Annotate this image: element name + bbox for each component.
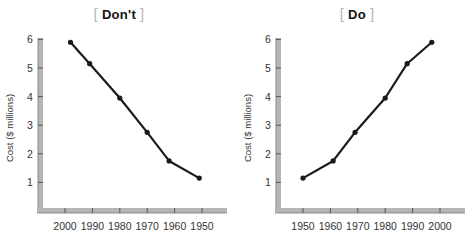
y-tick-label: 4 xyxy=(265,91,271,103)
y-tick-label: 2 xyxy=(27,148,33,160)
data-line xyxy=(303,42,432,178)
data-point xyxy=(331,158,336,163)
y-tick-label: 1 xyxy=(265,176,271,188)
data-point xyxy=(352,130,357,135)
x-tick-label: 1960 xyxy=(319,220,343,232)
do-chart-plot: Cost ($ millions)12345619501960197019801… xyxy=(238,0,476,240)
dont-chart-panel: [ Don't ] Cost ($ millions)1234562000199… xyxy=(0,0,238,240)
x-tick-label: 2000 xyxy=(53,220,77,232)
x-tick-label: 1980 xyxy=(108,220,132,232)
y-axis-label: Cost ($ millions) xyxy=(4,94,15,162)
y-axis-label: Cost ($ millions) xyxy=(242,94,253,162)
data-point xyxy=(300,176,305,181)
x-tick-label: 1980 xyxy=(374,220,398,232)
data-point xyxy=(405,61,410,66)
y-tick-label: 5 xyxy=(27,62,33,74)
x-tick-label: 2000 xyxy=(428,220,452,232)
y-tick-label: 3 xyxy=(265,119,271,131)
data-point xyxy=(429,40,434,45)
data-point xyxy=(87,61,92,66)
x-tick-label: 1970 xyxy=(136,220,160,232)
data-point xyxy=(68,40,73,45)
y-tick-label: 3 xyxy=(27,119,33,131)
do-chart-panel: [ Do ] Cost ($ millions)1234561950196019… xyxy=(238,0,476,240)
data-point xyxy=(383,95,388,100)
dont-chart-plot: Cost ($ millions)12345620001990198019701… xyxy=(0,0,238,240)
y-tick-label: 6 xyxy=(265,33,271,45)
data-point xyxy=(117,95,122,100)
y-tick-label: 6 xyxy=(27,33,33,45)
data-point xyxy=(167,158,172,163)
y-tick-label: 1 xyxy=(27,176,33,188)
x-tick-label: 1990 xyxy=(401,220,425,232)
y-tick-label: 5 xyxy=(265,62,271,74)
data-point xyxy=(145,130,150,135)
y-tick-label: 4 xyxy=(27,91,33,103)
x-tick-label: 1970 xyxy=(346,220,370,232)
x-tick-label: 1990 xyxy=(81,220,105,232)
data-point xyxy=(197,176,202,181)
x-tick-label: 1960 xyxy=(163,220,187,232)
x-tick-label: 1950 xyxy=(190,220,214,232)
y-tick-label: 2 xyxy=(265,148,271,160)
x-tick-label: 1950 xyxy=(291,220,315,232)
